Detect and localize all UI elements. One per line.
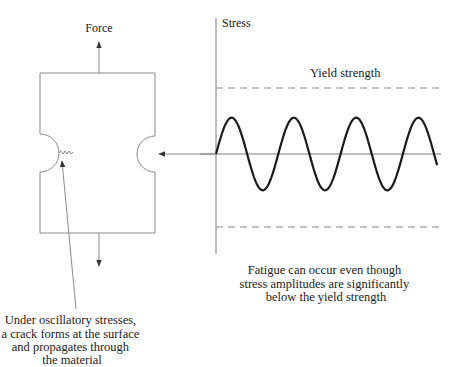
stress-graph: Stress Yield strength bbox=[200, 16, 441, 254]
force-label: Force bbox=[85, 21, 112, 35]
crack-zigzag bbox=[59, 151, 73, 154]
fatigue-caption-line: Fatigue can occur even though bbox=[248, 263, 402, 277]
crack-caption-line: a crack forms at the surface bbox=[2, 327, 140, 341]
specimen bbox=[40, 73, 155, 233]
crack-caption-line: Under oscillatory stresses, bbox=[5, 313, 137, 327]
crack-caption-line: the material bbox=[42, 353, 102, 367]
fatigue-diagram: Force Under oscillatory stresses, a crac… bbox=[0, 0, 466, 367]
crack-caption-line: and propagates through bbox=[12, 340, 130, 354]
crack-leader-arrow bbox=[62, 161, 76, 309]
specimen-outline bbox=[40, 73, 155, 233]
yield-strength-label: Yield strength bbox=[310, 66, 381, 80]
fatigue-caption: Fatigue can occur even though stress amp… bbox=[240, 263, 413, 304]
fatigue-caption-line: below the yield strength bbox=[266, 290, 387, 304]
crack-caption: Under oscillatory stresses, a crack form… bbox=[2, 313, 143, 367]
fatigue-caption-line: stress amplitudes are significantly bbox=[240, 277, 411, 291]
stress-axis-label: Stress bbox=[222, 16, 251, 30]
